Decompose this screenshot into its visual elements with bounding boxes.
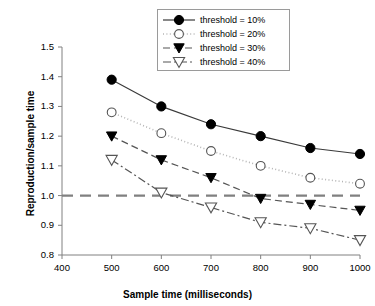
x-tick-label: 1000 [340, 262, 375, 273]
legend-key-filled-circle-icon [162, 13, 196, 27]
x-tick-label: 600 [141, 262, 181, 273]
x-tick-label: 900 [290, 262, 330, 273]
x-axis-title: Sample time (milliseconds) [0, 289, 375, 300]
legend-item: threshold = 20% [158, 27, 289, 41]
legend-item: threshold = 30% [158, 41, 289, 55]
data-series-group [106, 75, 366, 245]
legend-item-label: threshold = 40% [200, 57, 265, 67]
legend-item: threshold = 10% [158, 13, 289, 27]
legend-item-label: threshold = 10% [200, 15, 265, 25]
legend-item: threshold = 40% [158, 55, 289, 69]
x-tick-label: 400 [42, 262, 82, 273]
legend-item-label: threshold = 20% [200, 29, 265, 39]
y-axis-title: Reproduction/sample time [25, 54, 36, 254]
legend-key-open-triangle-icon [162, 55, 196, 69]
legend-key-filled-triangle-icon [162, 41, 196, 55]
legend: threshold = 10% threshold = 20% threshol… [157, 9, 290, 71]
y-tick-label: 1.5 [24, 41, 54, 52]
legend-key-open-circle-icon [162, 27, 196, 41]
x-tick-label: 800 [241, 262, 281, 273]
chart-container: 0.80.91.01.11.21.31.41.5 400500600700800… [0, 0, 375, 306]
legend-item-label: threshold = 30% [200, 43, 265, 53]
x-tick-label: 700 [191, 262, 231, 273]
x-tick-label: 500 [92, 262, 132, 273]
